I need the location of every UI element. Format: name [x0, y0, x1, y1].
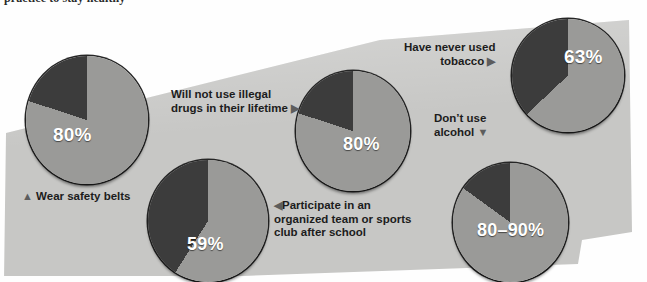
label-illegal-drugs-line1: Will not use illegal [171, 88, 271, 100]
figure-canvas: practice to stay healthy 80% 80% 63% 80–… [0, 0, 647, 282]
label-sports-club-line1: Participate in an [282, 199, 371, 211]
pie-chart-alcohol[interactable]: 80–90% [453, 163, 568, 282]
label-tobacco-line2: tobacco [440, 55, 484, 67]
pie-value-alcohol: 80–90% [477, 220, 544, 241]
label-alcohol-line2: alcohol [434, 126, 474, 138]
pie-slices-tobacco [512, 19, 624, 132]
triangle-up-icon: ▲ [22, 191, 33, 202]
label-illegal-drugs: Will not use illegal drugs in their life… [171, 88, 299, 115]
pie-chart-illegal-drugs[interactable]: 80% [296, 71, 410, 191]
label-alcohol: Don’t use alcohol ▼ [434, 112, 488, 139]
label-tobacco: Have never used tobacco ▶ [404, 41, 495, 68]
triangle-left-icon: ◀ [274, 200, 282, 211]
label-safety-belts: ▲ Wear safety belts [22, 190, 130, 204]
pie-value-sports-club: 59% [187, 234, 224, 255]
label-sports-club-line2: organized team or sports [274, 213, 411, 225]
label-alcohol-line1: Don’t use [434, 112, 486, 124]
triangle-right-icon: ▶ [487, 56, 495, 67]
triangle-right-icon: ▶ [291, 103, 299, 114]
pie-value-illegal-drugs: 80% [343, 134, 380, 155]
pie-slices-sports-club [148, 160, 268, 282]
pie-chart-safety-belts[interactable]: 80% [26, 56, 148, 184]
pie-slices-safety-belts [26, 56, 148, 184]
label-safety-belts-text: Wear safety belts [36, 190, 130, 202]
label-illegal-drugs-line2: drugs in their lifetime [171, 102, 288, 114]
label-sports-club-line3: club after school [274, 226, 366, 238]
pie-slices-illegal-drugs [296, 71, 410, 191]
pie-chart-sports-club[interactable]: 59% [148, 160, 268, 282]
pie-value-tobacco: 63% [564, 46, 603, 68]
triangle-down-icon: ▼ [477, 127, 488, 138]
headline-partial-text: practice to stay healthy [4, 0, 125, 6]
label-tobacco-line1: Have never used [404, 41, 495, 55]
label-sports-club: ◀Participate in an organized team or spo… [274, 199, 411, 240]
pie-chart-tobacco[interactable]: 63% [512, 19, 624, 132]
pie-value-safety-belts: 80% [53, 124, 92, 146]
